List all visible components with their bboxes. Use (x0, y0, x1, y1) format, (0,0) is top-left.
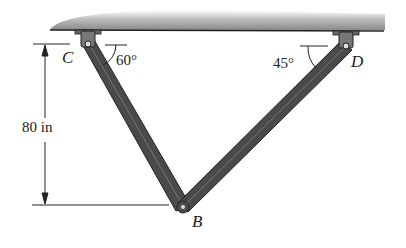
member-db (178, 42, 352, 212)
label-point-d: D (351, 52, 363, 72)
ceiling-support (50, 10, 385, 31)
label-height: 80 in (22, 119, 52, 136)
label-point-c: C (62, 48, 73, 68)
truss-diagram (0, 0, 406, 248)
label-angle-d: 45° (273, 55, 294, 72)
pin-b (177, 201, 189, 213)
label-angle-c: 60° (116, 52, 137, 69)
label-point-b: B (192, 212, 202, 232)
